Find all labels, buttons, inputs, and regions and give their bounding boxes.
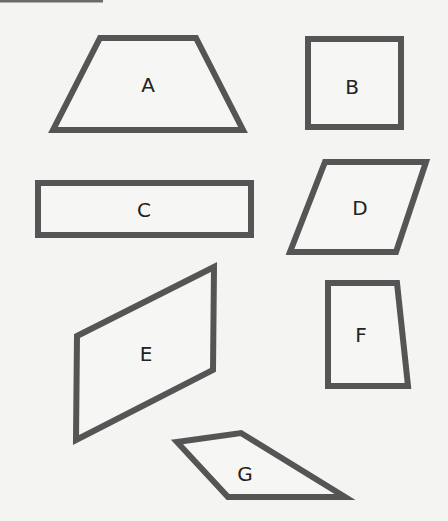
shape-f: F <box>328 283 408 386</box>
shape-f-outline <box>328 283 408 386</box>
shape-b: B <box>308 39 401 127</box>
shapes-figure: A B C D E F G <box>0 0 448 521</box>
shape-g: G <box>177 433 345 497</box>
shape-f-label: F <box>355 323 367 347</box>
shape-b-label: B <box>345 75 359 99</box>
shape-d: D <box>290 162 426 252</box>
shape-g-label: G <box>237 462 253 486</box>
shape-e-label: E <box>140 342 153 366</box>
shape-d-label: D <box>352 196 367 220</box>
shape-c: C <box>38 183 251 235</box>
shape-e: E <box>76 267 214 440</box>
shape-c-label: C <box>137 198 151 222</box>
shapes-canvas: A B C D E F G <box>0 0 448 521</box>
shape-g-outline <box>177 433 345 497</box>
shape-a-label: A <box>141 73 155 97</box>
shape-a: A <box>53 38 243 130</box>
